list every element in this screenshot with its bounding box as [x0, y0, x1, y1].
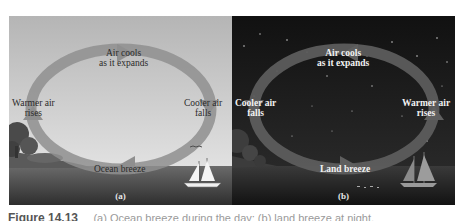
label-air-cools: Air cools as it expands: [317, 48, 369, 68]
label-cooler-air-falls: Cooler air falls: [235, 98, 276, 118]
caption-text: (a) Ocean breeze during the day; (b) lan…: [93, 212, 374, 221]
label-warmer-air-rises: Warmer air rises: [12, 98, 55, 118]
label-air-cools: Air cools as it expands: [99, 48, 148, 68]
panel-b-land-breeze: Air cools as it expands Cooler air falls…: [232, 16, 455, 205]
label-text: Cooler air falls: [235, 98, 276, 118]
panel-a-sublabel: (a): [9, 191, 232, 201]
label-cooler-air-falls: Cooler air falls: [184, 98, 222, 118]
label-text: Warmer air rises: [12, 98, 55, 118]
figure-caption: Figure 14.13 (a) Ocean breeze during the…: [8, 211, 460, 221]
panel-a-ocean-breeze: Air cools as it expands Warmer air rises…: [9, 16, 232, 205]
panel-b-sublabel: (b): [232, 191, 455, 201]
label-land-breeze: Land breeze: [320, 164, 370, 174]
label-text: Warmer air rises: [402, 98, 450, 118]
figure-number: Figure 14.13: [8, 211, 78, 221]
label-text: Ocean breeze: [94, 164, 145, 174]
label-warmer-air-rises: Warmer air rises: [402, 98, 450, 118]
label-text: Air cools as it expands: [99, 48, 148, 68]
label-text: Cooler air falls: [184, 98, 222, 118]
label-text: Air cools as it expands: [317, 48, 369, 68]
sea-breeze-figure: Air cools as it expands Warmer air rises…: [9, 16, 455, 205]
label-ocean-breeze: Ocean breeze: [94, 164, 145, 174]
label-text: Land breeze: [320, 164, 370, 174]
